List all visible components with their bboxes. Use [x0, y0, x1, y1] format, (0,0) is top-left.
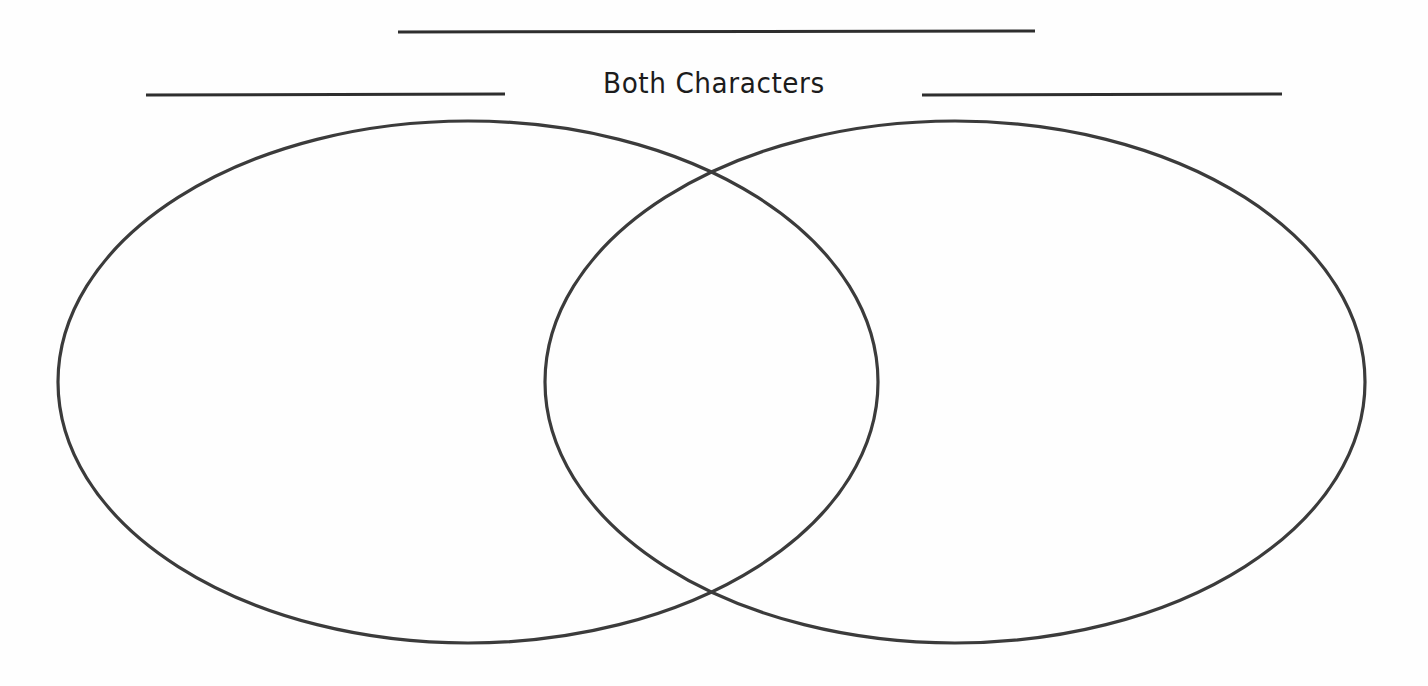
venn-right-ellipse[interactable] — [545, 121, 1365, 643]
venn-diagram-canvas — [0, 0, 1428, 686]
center-top-blank-line[interactable] — [398, 31, 1035, 32]
venn-left-ellipse[interactable] — [58, 121, 878, 643]
venn-diagram-worksheet: Both Characters — [0, 0, 1428, 686]
both-characters-heading: Both Characters — [0, 68, 1428, 100]
both-characters-heading-text: Both Characters — [603, 68, 825, 100]
